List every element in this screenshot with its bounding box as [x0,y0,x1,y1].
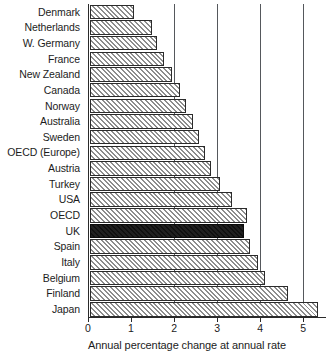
category-label: Belgium [0,270,84,286]
category-label: Turkey [0,176,84,192]
category-label: Canada [0,82,84,98]
bar-chart: DenmarkNetherlandsW. GermanyFranceNew Ze… [0,0,328,362]
category-label: Australia [0,114,84,130]
category-label: Netherlands [0,20,84,36]
plot-area [88,4,326,317]
category-label: USA [0,192,84,208]
x-tick-label: 2 [171,323,177,334]
x-tick-label: 3 [214,323,220,334]
category-label: Finland [0,286,84,302]
x-tick-label: 1 [128,323,134,334]
category-label: Sweden [0,129,84,145]
category-label: Japan [0,301,84,317]
category-label: OECD [0,208,84,224]
category-label: Denmark [0,4,84,20]
category-label: France [0,51,84,67]
x-axis-title: Annual percentage change at annual rate [88,340,286,351]
category-label: New Zealand [0,67,84,83]
category-label: Spain [0,239,84,255]
category-label: Norway [0,98,84,114]
x-axis-ticks: 012345 [88,317,326,323]
category-label: Austria [0,161,84,177]
plot-frame [88,4,326,317]
x-tick-label: 0 [85,323,91,334]
category-label: Italy [0,255,84,271]
category-label: W. Germany [0,35,84,51]
x-tick-label: 4 [257,323,263,334]
category-label: OECD (Europe) [0,145,84,161]
category-label: UK [0,223,84,239]
category-axis: DenmarkNetherlandsW. GermanyFranceNew Ze… [0,4,84,317]
x-tick-label: 5 [300,323,306,334]
